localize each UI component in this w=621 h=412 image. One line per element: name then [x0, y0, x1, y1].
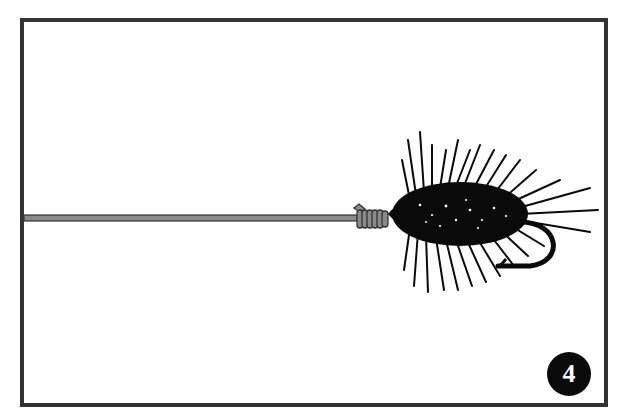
knot-wraps-icon [354, 204, 388, 228]
fishing-line [24, 215, 360, 221]
fly-hook-icon [388, 132, 598, 292]
step-number: 4 [563, 359, 576, 389]
step-number-badge: 4 [547, 352, 591, 396]
fly-knot-illustration [0, 0, 621, 412]
